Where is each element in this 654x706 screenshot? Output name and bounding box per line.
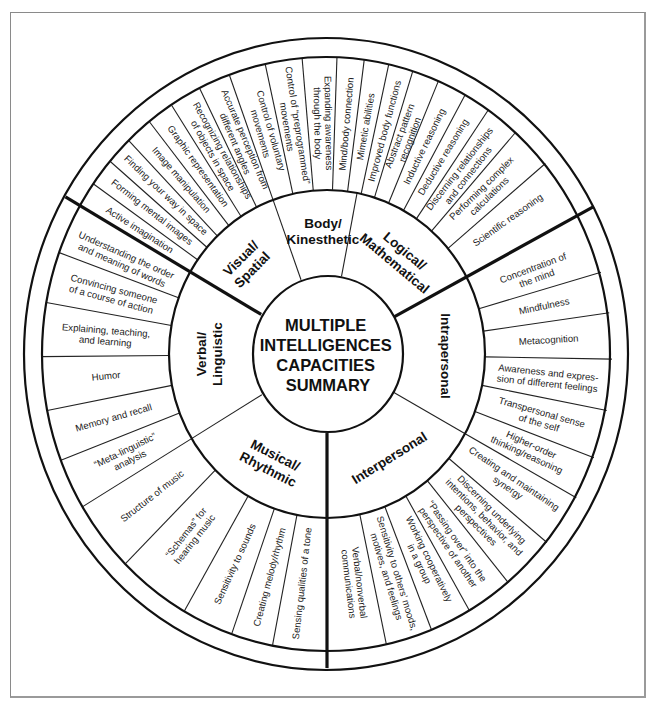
category-label-intrapersonal: Intrapersonal: [438, 313, 453, 399]
capacity-item: “Schemas” forhearing music: [163, 505, 218, 567]
capacity-item-line: Creating melody/rhythm: [251, 526, 288, 627]
capacity-item-line: through the body: [312, 87, 324, 159]
capacity-item: Awareness and expres-sion of different f…: [496, 362, 599, 394]
item-divider-line: [47, 385, 172, 410]
capacity-item-line: Humor: [91, 369, 122, 383]
category-label-line: Body/: [304, 216, 342, 231]
capacity-item: Expanding awarenessthrough the body: [311, 76, 335, 171]
capacity-item: Humor: [91, 369, 122, 383]
title-line: SUMMARY: [286, 376, 371, 394]
capacity-item: Structure of music: [118, 468, 186, 524]
capacity-item: “Meta-linguistic”analysis: [92, 430, 163, 479]
category-verbal-linguistic-items: “Meta-linguistic”analysisMemory and reca…: [61, 229, 177, 480]
item-divider-line: [485, 357, 612, 359]
capacity-item-line: Sensing qualities of a tone: [290, 527, 314, 640]
category-body-kinesthetic-items: Control of voluntarymovementsControl of …: [244, 66, 403, 187]
category-label-verbal-linguistic: Verbal/Linguistic: [194, 322, 225, 386]
capacity-item-line: Sensitivity to sounds: [212, 522, 258, 606]
multiple-intelligences-wheel: Active imaginationForming mental imagesF…: [0, 0, 654, 706]
capacity-item: Creating melody/rhythm: [251, 526, 288, 627]
capacity-item: Mind/body connection: [337, 77, 356, 171]
capacity-item: Concentration ofthe mind: [498, 250, 572, 295]
category-label-line: Verbal/: [194, 332, 209, 377]
category-intrapersonal-items: Concentration ofthe mindMindfulnessMetac…: [489, 250, 599, 476]
category-label-line: Kinesthetic: [287, 232, 360, 247]
category-divider-line: [393, 392, 465, 433]
title-line: MULTIPLE: [285, 316, 366, 334]
category-logical-mathematical-items: Abstract patternrecognitionInductive rea…: [382, 102, 544, 248]
category-divider-line: [192, 395, 262, 439]
category-label-visual-spatial: Visual/Spatial: [220, 238, 273, 291]
title-line: INTELLIGENCES: [260, 336, 392, 354]
category-label-line: Interpersonal: [349, 429, 429, 487]
category-label-musical-rhythmic: Musical/Rhythmic: [237, 435, 306, 491]
capacity-item: Sensing qualities of a tone: [290, 527, 314, 640]
capacity-item: Mindfulness: [518, 295, 571, 316]
category-label-interpersonal: Interpersonal: [349, 429, 429, 487]
item-divider-line: [42, 355, 169, 356]
capacity-item-line: Mind/body connection: [337, 77, 356, 171]
capacity-item-line: Structure of music: [118, 468, 186, 524]
capacity-item: Verbal/nonverbalcommunications: [339, 546, 370, 620]
item-divider-line: [483, 313, 609, 331]
capacity-item: Metacognition: [518, 332, 578, 347]
category-label-line: Linguistic: [210, 322, 225, 386]
capacity-item: Explaining, teaching,and learning: [61, 321, 151, 350]
capacity-item-line: Mindfulness: [518, 295, 571, 316]
center-circle: [253, 276, 403, 432]
capacity-item-line: Metacognition: [518, 332, 578, 347]
title-line: CAPACITIES: [276, 356, 375, 374]
category-label-body-kinesthetic: Body/Kinesthetic: [287, 216, 360, 247]
category-label-line: Intrapersonal: [438, 313, 453, 399]
capacity-item: Sensitivity to sounds: [212, 522, 258, 606]
